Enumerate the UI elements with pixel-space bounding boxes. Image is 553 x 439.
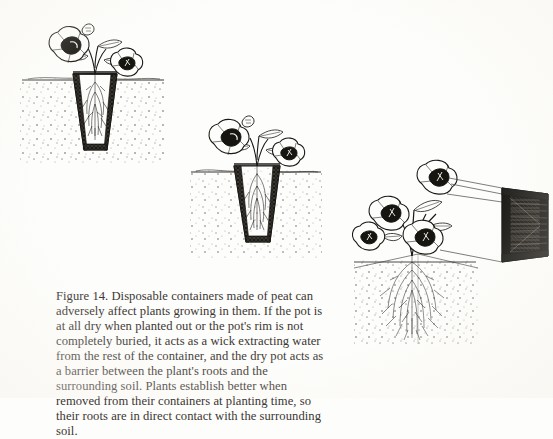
empty-peat-pot xyxy=(502,188,548,262)
figure-caption: Figure 14. Disposable containers made of… xyxy=(56,289,324,439)
flowers-right xyxy=(353,160,458,254)
stems-middle xyxy=(250,136,268,166)
figure-plant-in-peat-pot-buried-shallow xyxy=(18,16,168,168)
figure-plant-in-peat-pot-buried xyxy=(188,112,324,260)
figure-plant-removed-from-pot xyxy=(352,158,552,348)
stems-left xyxy=(88,46,106,74)
